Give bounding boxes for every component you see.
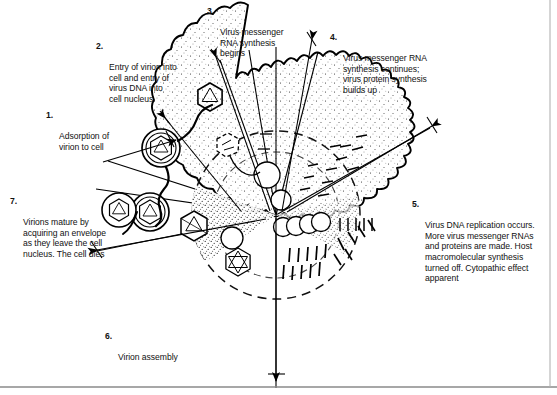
caption-step-1-number: 1. (46, 110, 53, 121)
caption-step-7-text: Virions mature by acquiring an envelope … (23, 217, 134, 259)
caption-step-2-number: 2. (96, 41, 103, 52)
caption-step-4: 4. Virus messenger RNA synthesis continu… (330, 32, 490, 106)
caption-step-4-number: 4. (330, 32, 337, 43)
caption-step-4-text: Virus messenger RNA synthesis continues;… (343, 53, 490, 95)
caption-step-2-text: Entry of virion into cell and entry of v… (109, 62, 221, 104)
caption-step-7-number: 7. (10, 196, 17, 207)
caption-step-5-number: 5. (412, 199, 419, 210)
figure-root: 1. Adsorption of virion to cell 2. Entry… (0, 0, 557, 395)
caption-step-5: 5. Virus DNA replication occurs. More vi… (412, 199, 557, 294)
caption-step-6: 6. Virion assembly (105, 331, 245, 373)
caption-step-6-number: 6. (105, 331, 112, 342)
pre-capsid (221, 227, 243, 249)
caption-step-3-number: 3. (207, 6, 214, 17)
caption-step-5-text: Virus DNA replication occurs. More virus… (425, 220, 557, 284)
caption-step-3: 3. Virus messenger RNA synthesis begins (207, 6, 322, 70)
hexagonal-capsid (181, 211, 207, 241)
nuclear-vesicle (271, 190, 291, 210)
caption-step-2: 2. Entry of virion into cell and entry o… (96, 41, 221, 115)
caption-step-3-text: Virus messenger RNA synthesis begins (220, 27, 322, 59)
caption-step-1: 1. Adsorption of virion to cell (46, 110, 166, 163)
caption-step-1-text: Adsorption of virion to cell (59, 131, 166, 152)
caption-step-7: 7. Virions mature by acquiring an envelo… (10, 196, 134, 270)
caption-step-6-text: Virion assembly (118, 352, 245, 363)
icosahedral-capsid (226, 248, 250, 276)
